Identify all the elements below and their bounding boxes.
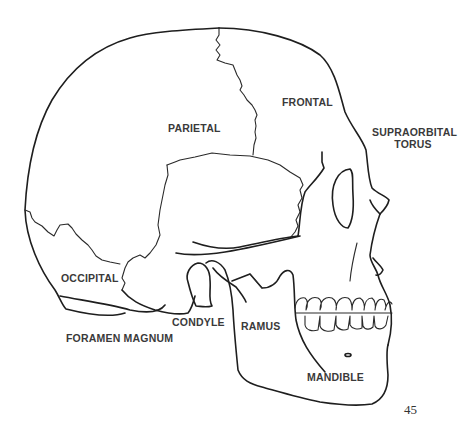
occipital-base [60, 296, 165, 312]
label-supraorbital-line1: SUPRAORBITAL [372, 126, 454, 138]
cranium-back [25, 28, 219, 316]
label-parietal: PARIETAL [168, 122, 221, 134]
lower-teeth [305, 316, 388, 331]
coronal-suture [216, 28, 257, 155]
condyle-shape [187, 263, 212, 307]
label-ramus: RAMUS [241, 320, 281, 332]
cranium-outline [219, 28, 389, 214]
label-supraorbital-torus: SUPRAORBITAL TORUS [372, 126, 454, 150]
label-frontal: FRONTAL [282, 96, 333, 108]
orbit [332, 169, 353, 228]
zygomatic-front [298, 152, 324, 236]
upper-teeth [295, 298, 392, 311]
mandible-outline [206, 261, 388, 405]
page-number: 45 [404, 402, 417, 418]
label-foramen-magnum: FORAMEN MAGNUM [66, 332, 173, 344]
articular-eminence [250, 274, 262, 288]
squamosal-suture [167, 153, 303, 238]
label-occipital: OCCIPITAL [61, 272, 119, 284]
label-mandible: MANDIBLE [307, 371, 364, 383]
lambdoid-suture [25, 210, 120, 264]
skull-diagram: FRONTAL PARIETAL SUPRAORBITAL TORUS OCCI… [0, 0, 476, 438]
zygomatic-arch-upper [193, 236, 298, 248]
temporal-back-suture [122, 165, 168, 290]
mental-foramen [345, 354, 351, 357]
label-condyle: CONDYLE [172, 316, 225, 328]
maxilla-line [350, 243, 357, 281]
nasal-bone [370, 200, 380, 214]
skull-drawing [0, 0, 476, 438]
label-supraorbital-line2: TORUS [372, 138, 454, 150]
